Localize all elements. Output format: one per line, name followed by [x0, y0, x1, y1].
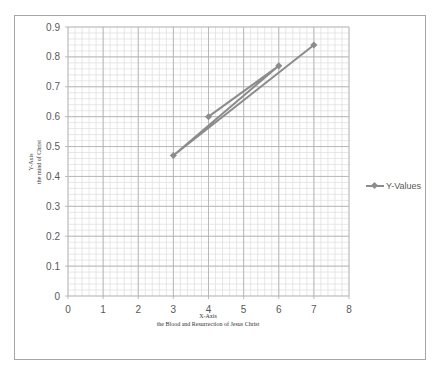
- legend: Y-Values: [366, 181, 422, 191]
- y-tick-label: 0.8: [46, 51, 60, 62]
- x-tick-label: 8: [346, 304, 352, 315]
- x-tick-label: 7: [311, 304, 317, 315]
- x-tick-label: 3: [171, 304, 177, 315]
- legend-diamond-marker-icon: [371, 182, 378, 189]
- y-tick-label: 0.5: [46, 141, 60, 152]
- y-axis-tick-labels: 00.10.20.30.40.50.60.70.80.9: [46, 22, 60, 302]
- x-tick-label: 2: [135, 304, 141, 315]
- x-tick-label: 0: [65, 304, 71, 315]
- y-axis-title-line1: Y-Axis: [28, 153, 34, 171]
- chart-svg: 00.10.20.30.40.50.60.70.80.9 012345678 X…: [0, 0, 443, 369]
- y-tick-label: 0.3: [46, 201, 60, 212]
- y-tick-label: 0.7: [46, 81, 60, 92]
- legend-label: Y-Values: [386, 181, 422, 191]
- y-tick-label: 0.2: [46, 231, 60, 242]
- x-tick-label: 1: [100, 304, 106, 315]
- y-tick-label: 0.9: [46, 22, 60, 33]
- x-tick-label: 6: [276, 304, 282, 315]
- y-tick-label: 0: [54, 291, 60, 302]
- y-tick-label: 0.4: [46, 171, 60, 182]
- x-axis-title-line2: the Blood and Resurrection of Jesus Chri…: [157, 321, 260, 327]
- major-gridlines: [65, 27, 349, 299]
- y-axis-title-line2: the mind of Christ: [36, 140, 42, 184]
- x-tick-label: 5: [241, 304, 247, 315]
- y-tick-label: 0.1: [46, 261, 60, 272]
- y-tick-label: 0.6: [46, 111, 60, 122]
- x-axis-title-line1: X-Axis: [199, 313, 217, 319]
